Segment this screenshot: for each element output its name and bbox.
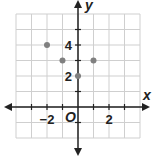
- y-tick-label: 4: [65, 38, 73, 53]
- x-axis-right-arrow-icon: [142, 103, 150, 111]
- data-point: [75, 73, 81, 79]
- data-point: [91, 58, 97, 64]
- y-axis-up-arrow-icon: [74, 0, 82, 8]
- data-point: [44, 42, 50, 48]
- x-tick-label: −2: [40, 112, 55, 127]
- x-axis-left-arrow-icon: [4, 103, 12, 111]
- coordinate-plane: −2224 x y O: [0, 0, 153, 159]
- origin-label: O: [65, 109, 76, 125]
- y-tick-label: 2: [65, 69, 72, 84]
- y-axis-down-arrow-icon: [74, 148, 82, 156]
- data-point: [60, 58, 66, 64]
- y-axis-label: y: [84, 0, 94, 13]
- x-axis-label: x: [142, 87, 152, 103]
- x-tick-label: 2: [105, 112, 112, 127]
- tick-labels: −2224: [40, 38, 113, 127]
